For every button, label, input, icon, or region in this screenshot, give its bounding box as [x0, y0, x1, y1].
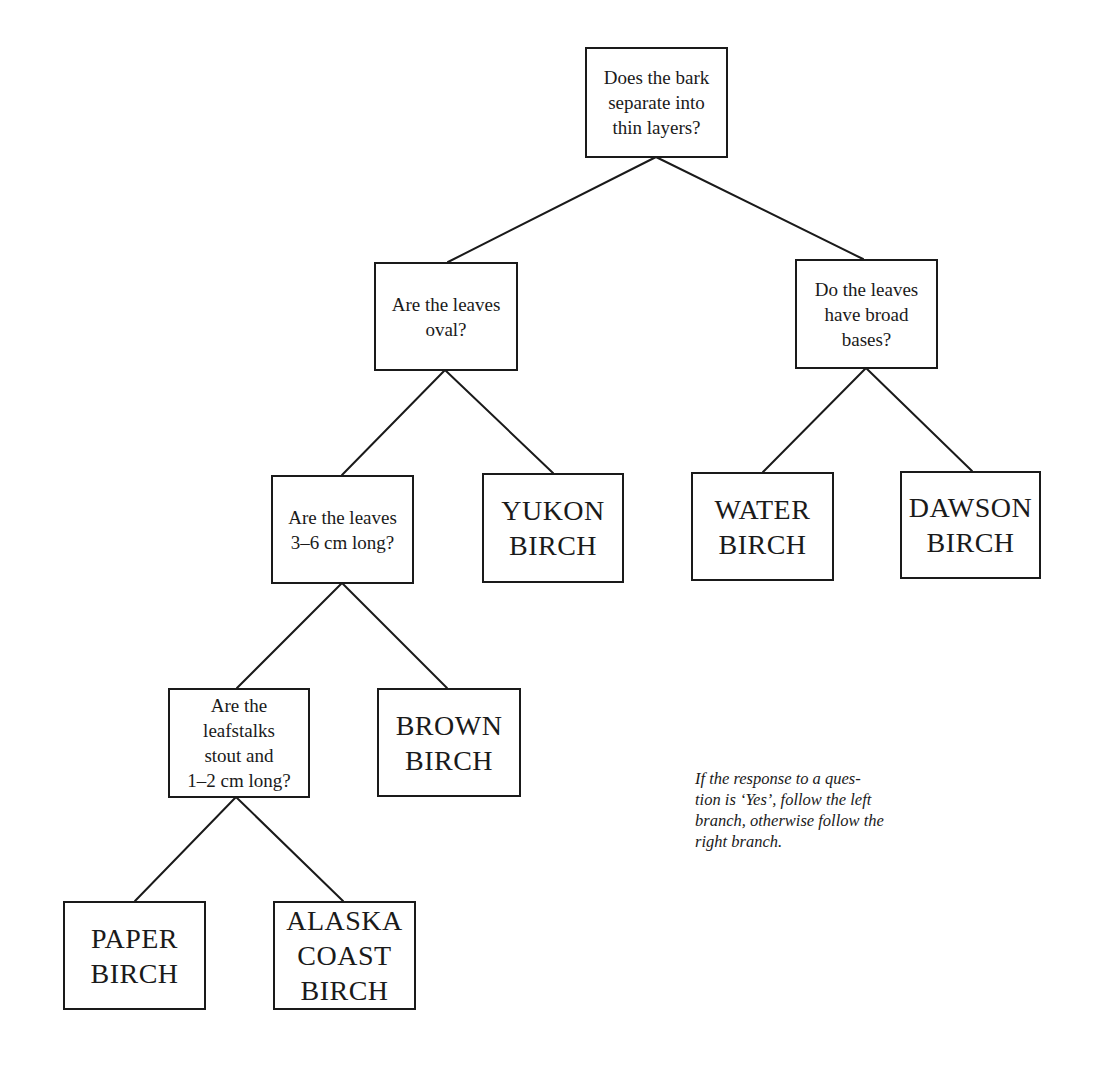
node-label: Does the bark separate into thin layers?	[604, 65, 710, 140]
node-alaska-coast-birch[interactable]: ALASKA COAST BIRCH	[273, 901, 416, 1010]
node-bark-separates-question[interactable]: Does the bark separate into thin layers?	[585, 47, 728, 158]
connector-no-branch	[656, 157, 863, 259]
connector-yes-branch	[237, 583, 342, 688]
node-yukon-birch[interactable]: YUKON BIRCH	[482, 473, 624, 583]
instruction-note: If the response to a ques- tion is ‘Yes’…	[695, 768, 910, 852]
connector-no-branch	[866, 368, 972, 471]
connector-no-branch	[236, 797, 343, 901]
connector-yes-branch	[135, 797, 236, 901]
connector-no-branch	[445, 370, 553, 473]
connector-yes-branch	[342, 370, 445, 475]
connector-yes-branch	[763, 368, 866, 472]
node-paper-birch[interactable]: PAPER BIRCH	[63, 901, 206, 1010]
node-label: PAPER BIRCH	[90, 921, 178, 991]
node-label: DAWSON BIRCH	[909, 490, 1033, 560]
node-label: YUKON BIRCH	[501, 493, 605, 563]
node-broad-bases-question[interactable]: Do the leaves have broad bases?	[795, 259, 938, 369]
connector-yes-branch	[448, 157, 656, 262]
node-brown-birch[interactable]: BROWN BIRCH	[377, 688, 521, 797]
node-dawson-birch[interactable]: DAWSON BIRCH	[900, 471, 1041, 579]
node-leaf-length-question[interactable]: Are the leaves 3–6 cm long?	[271, 475, 414, 584]
node-label: Do the leaves have broad bases?	[815, 277, 918, 352]
node-label: ALASKA COAST BIRCH	[286, 903, 403, 1008]
node-leaves-oval-question[interactable]: Are the leaves oval?	[374, 262, 518, 371]
node-leafstalks-question[interactable]: Are the leafstalks stout and 1–2 cm long…	[168, 688, 310, 798]
node-water-birch[interactable]: WATER BIRCH	[691, 472, 834, 581]
decision-tree-diagram: Does the bark separate into thin layers?…	[0, 0, 1100, 1076]
node-label: WATER BIRCH	[715, 492, 811, 562]
connector-no-branch	[342, 583, 447, 688]
node-label: Are the leaves 3–6 cm long?	[288, 505, 397, 555]
node-label: BROWN BIRCH	[396, 708, 503, 778]
node-label: Are the leaves oval?	[392, 292, 501, 342]
node-label: Are the leafstalks stout and 1–2 cm long…	[187, 693, 290, 793]
